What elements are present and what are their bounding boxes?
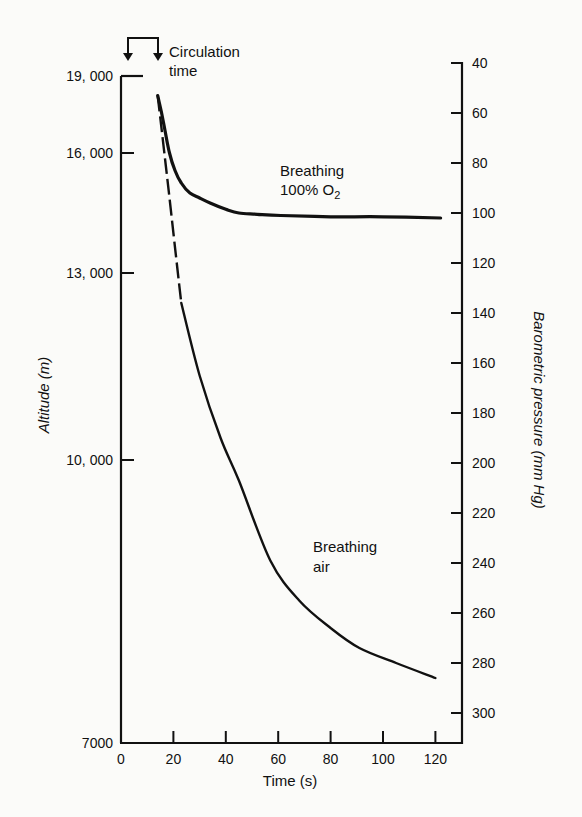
- air-label-line2: air: [313, 558, 330, 575]
- circulation-time-bracket: Circulation time: [123, 38, 240, 79]
- right-tick-label: 200: [472, 455, 496, 471]
- left-axis-ticks: 19, 00016, 00013, 00010, 0007000: [66, 68, 134, 751]
- right-tick-label: 240: [472, 555, 496, 571]
- x-tick-label: 60: [270, 751, 286, 767]
- right-tick-label: 300: [472, 705, 496, 721]
- right-tick-label: 180: [472, 405, 496, 421]
- arrow-down-icon: [153, 53, 163, 61]
- x-axis-ticks: 020406080100120: [117, 731, 447, 767]
- x-tick-label: 0: [117, 751, 125, 767]
- right-tick-label: 280: [472, 655, 496, 671]
- o2-label-line1: Breathing: [280, 162, 344, 179]
- arrow-down-icon: [123, 53, 133, 61]
- left-tick-label: 13, 000: [66, 265, 113, 281]
- air-label-line1: Breathing: [313, 538, 377, 555]
- right-tick-label: 60: [472, 105, 488, 121]
- left-tick-label: 19, 000: [66, 68, 113, 84]
- right-tick-label: 220: [472, 505, 496, 521]
- left-tick-label: 10, 000: [66, 452, 113, 468]
- x-tick-label: 40: [218, 751, 234, 767]
- air-curve-dashed: [158, 96, 182, 304]
- air-curve: [181, 303, 435, 678]
- right-tick-label: 40: [472, 55, 488, 71]
- right-tick-label: 120: [472, 255, 496, 271]
- right-tick-label: 100: [472, 205, 496, 221]
- altitude-pressure-chart: 020406080100120 19, 00016, 00013, 00010,…: [0, 0, 582, 817]
- right-tick-label: 140: [472, 305, 496, 321]
- right-axis-ticks: 406080100120140160180200220240260280300: [451, 55, 496, 721]
- x-tick-label: 80: [323, 751, 339, 767]
- x-tick-label: 20: [166, 751, 182, 767]
- right-tick-label: 260: [472, 605, 496, 621]
- x-axis-title: Time (s): [263, 772, 317, 789]
- x-tick-label: 120: [424, 751, 448, 767]
- o2-curve: [158, 96, 441, 219]
- o2-label-line2: 100% O2: [280, 181, 340, 201]
- circulation-label-line1: Circulation: [169, 43, 240, 60]
- right-tick-label: 80: [472, 155, 488, 171]
- left-tick-label: 16, 000: [66, 145, 113, 161]
- x-tick-label: 100: [371, 751, 395, 767]
- left-axis-title: Altitude (m): [35, 357, 52, 435]
- circulation-label-line2: time: [169, 62, 197, 79]
- right-axis-title: Barometric pressure (mm Hg): [531, 311, 548, 509]
- left-tick-label: 7000: [82, 735, 113, 751]
- right-tick-label: 160: [472, 355, 496, 371]
